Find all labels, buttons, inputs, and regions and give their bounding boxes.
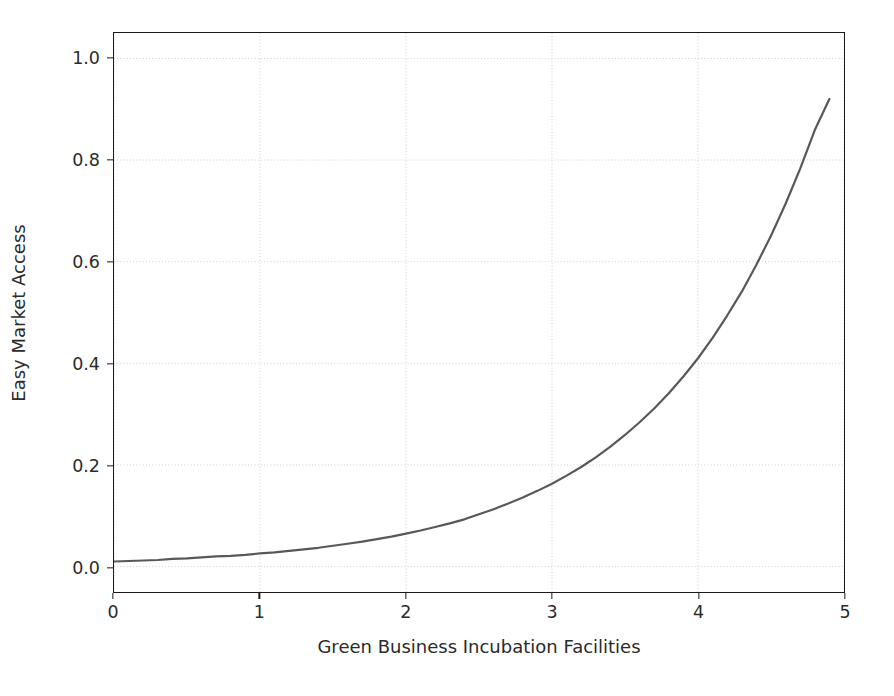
data-series-line: [114, 33, 844, 592]
y-axis-label: Easy Market Access: [1, 33, 37, 594]
x-tick-label: 0: [107, 602, 118, 622]
y-tick-mark: [107, 159, 113, 160]
x-tick-mark: [405, 593, 406, 599]
y-tick-label: 0.0: [72, 558, 100, 578]
x-tick-label: 5: [839, 602, 850, 622]
y-tick-mark: [107, 465, 113, 466]
y-tick-mark: [107, 567, 113, 568]
x-axis-label: Green Business Incubation Facilities: [113, 636, 845, 657]
y-tick-label: 0.4: [72, 354, 100, 374]
x-tick-label: 4: [693, 602, 704, 622]
x-tick-mark: [844, 593, 845, 599]
x-tick-mark: [698, 593, 699, 599]
y-tick-mark: [107, 57, 113, 58]
x-tick-label: 3: [547, 602, 558, 622]
plot-area: [113, 32, 845, 593]
x-tick-label: 1: [254, 602, 265, 622]
x-tick-mark: [552, 593, 553, 599]
y-tick-label: 0.8: [72, 150, 100, 170]
chart-figure: 0.00.20.40.60.81.0 012345 Green Business…: [0, 0, 894, 696]
y-tick-label: 0.2: [72, 456, 100, 476]
series-path: [114, 99, 829, 561]
y-tick-label: 1.0: [72, 48, 100, 68]
x-tick-label: 2: [400, 602, 411, 622]
y-tick-mark: [107, 261, 113, 262]
x-tick-mark: [259, 593, 260, 599]
y-tick-mark: [107, 363, 113, 364]
x-tick-mark: [112, 593, 113, 599]
y-tick-label: 0.6: [72, 252, 100, 272]
